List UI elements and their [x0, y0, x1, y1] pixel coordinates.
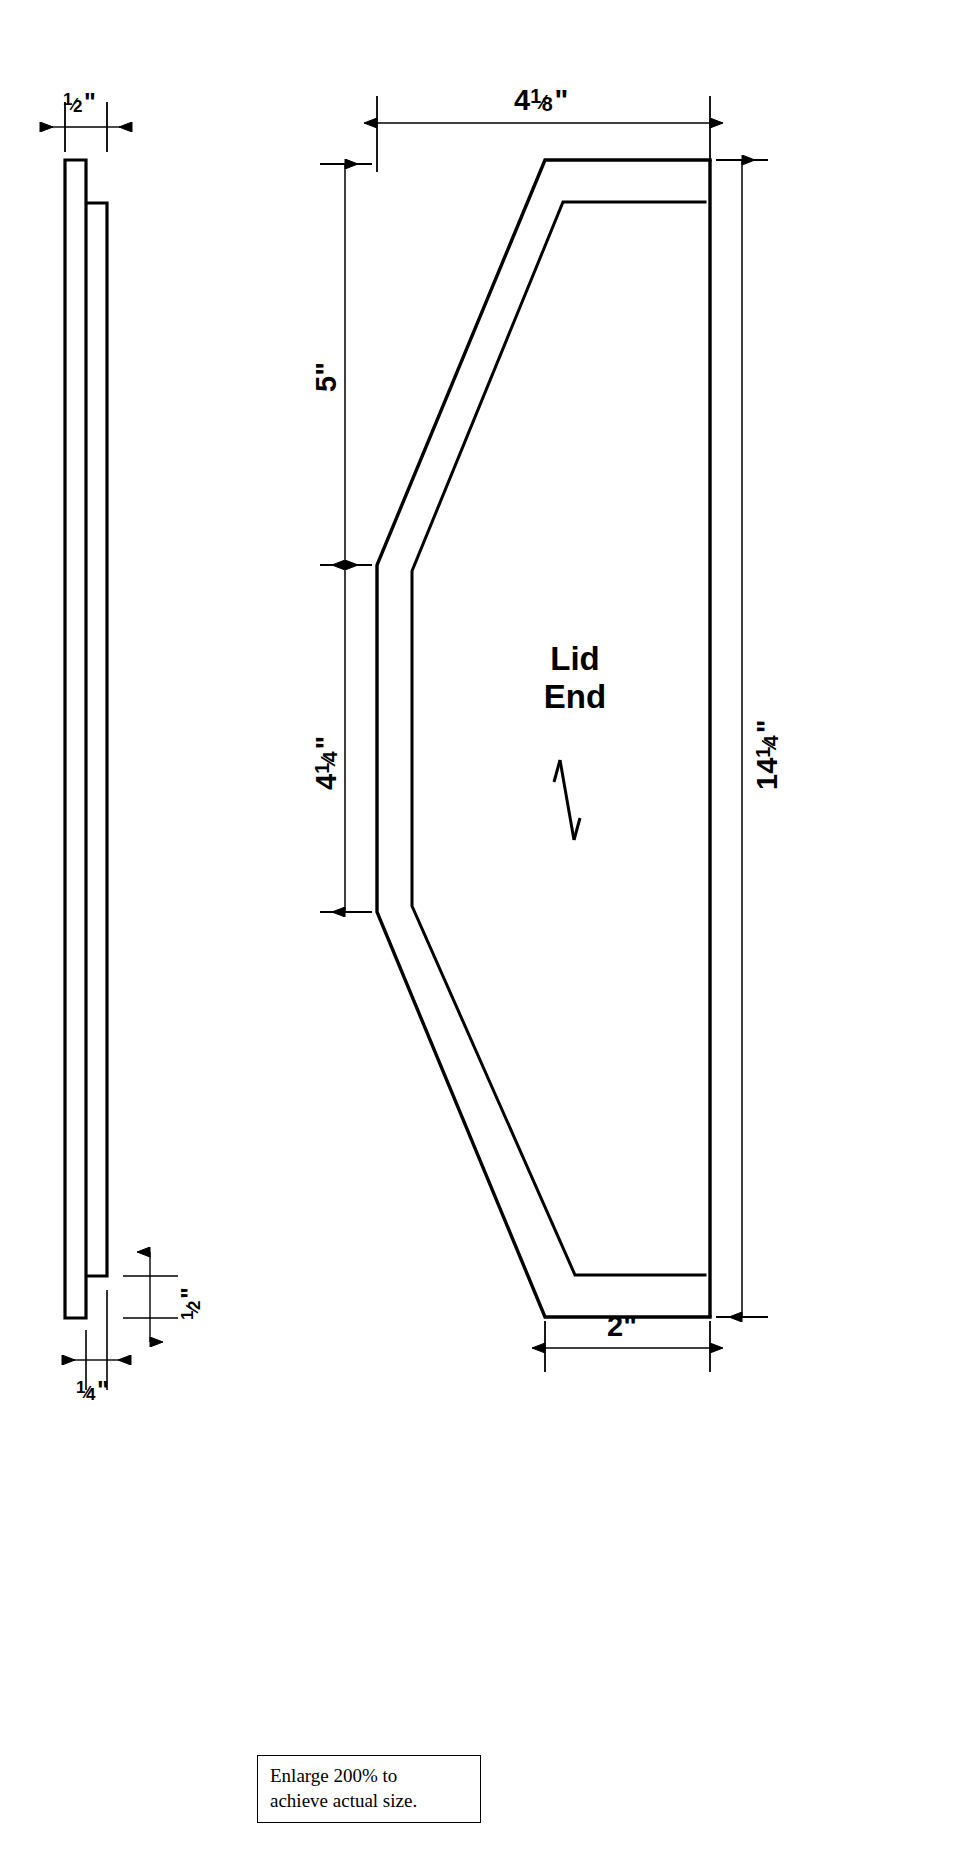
- frac-numerator: 1: [752, 747, 774, 758]
- frac-numerator: 1: [530, 85, 541, 107]
- dim-label-middle-height: 41⁄4": [312, 736, 341, 790]
- unit-mark: ": [176, 1287, 204, 1299]
- unit-mark: ": [555, 84, 569, 116]
- unit-mark: ": [84, 88, 96, 116]
- unit-mark: ": [97, 1376, 109, 1404]
- whole-number: 2: [607, 1310, 623, 1342]
- frac-numerator: 1: [63, 90, 72, 109]
- frac-denominator: 8: [542, 93, 553, 115]
- whole-number: 4: [310, 774, 342, 790]
- dim-label-rabbet-width: 1⁄4": [76, 1378, 109, 1403]
- dim-label-side-thickness: 1⁄2": [63, 90, 96, 115]
- side-profile-outer-strip: [65, 160, 86, 1318]
- part-name-line-2: End: [510, 678, 640, 716]
- part-name-line-1: Lid: [510, 640, 640, 678]
- scale-note-line-1: Enlarge 200% to: [270, 1764, 470, 1789]
- lid-end-inner-outline: [412, 202, 705, 1275]
- technical-drawing-svg: [0, 0, 968, 1851]
- frac-denominator: 2: [73, 97, 82, 116]
- frac-denominator: 4: [86, 1385, 95, 1404]
- dim-side-rabbet-width: [62, 1290, 131, 1390]
- dim-label-bottom-width: 2": [607, 1312, 637, 1341]
- frac-denominator: 4: [760, 735, 782, 746]
- dim-side-rabbet-depth: [123, 1252, 178, 1342]
- part-name-label: Lid End: [510, 640, 640, 717]
- dim-label-rabbet-depth: 1⁄2": [178, 1287, 203, 1320]
- unit-mark: ": [751, 720, 783, 734]
- whole-number: 5: [310, 376, 342, 392]
- whole-number: 4: [514, 84, 530, 116]
- frac-denominator: 4: [319, 751, 341, 762]
- unit-mark: ": [310, 736, 342, 750]
- frac-numerator: 1: [76, 1378, 85, 1397]
- dim-label-overall-height: 141⁄4": [753, 720, 782, 790]
- lid-end-outer-outline: [377, 160, 710, 1317]
- drawing-canvas: 1⁄2" 1⁄2" 1⁄4" 41⁄8" 5" 41⁄4" 141⁄4" 2" …: [0, 0, 968, 1851]
- scale-note-line-2: achieve actual size.: [270, 1789, 470, 1814]
- unit-mark: ": [310, 362, 342, 376]
- dim-label-upper-height: 5": [312, 362, 341, 392]
- dim-label-top-width: 41⁄8": [514, 86, 568, 115]
- whole-number: 14: [751, 758, 783, 790]
- side-profile-inner-strip: [86, 203, 107, 1276]
- frac-numerator: 1: [178, 1311, 197, 1320]
- scale-note-box: Enlarge 200% to achieve actual size.: [257, 1755, 481, 1823]
- unit-mark: ": [623, 1310, 637, 1342]
- frac-numerator: 1: [311, 763, 333, 774]
- frac-denominator: 2: [185, 1301, 204, 1310]
- grain-direction-arrow-icon: [554, 760, 580, 840]
